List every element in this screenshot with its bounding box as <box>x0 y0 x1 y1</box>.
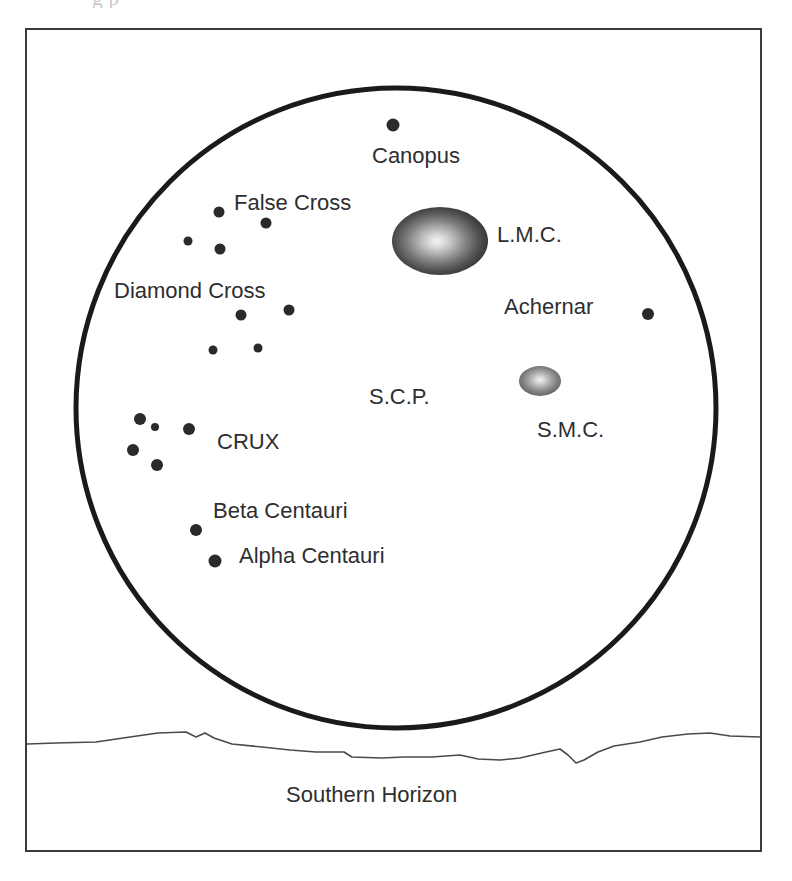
label-achernar: Achernar <box>504 296 593 318</box>
label-crux: CRUX <box>217 431 279 453</box>
label-lmc: L.M.C. <box>497 224 562 246</box>
label-alpha-centauri: Alpha Centauri <box>239 545 385 567</box>
label-southern-horizon: Southern Horizon <box>286 784 457 806</box>
clipped-caption-above: g p <box>0 0 792 8</box>
star-chart-figure: g p <box>0 0 792 881</box>
label-canopus: Canopus <box>372 145 460 167</box>
label-scp: S.C.P. <box>369 386 430 408</box>
label-diamond-cross: Diamond Cross <box>114 280 266 302</box>
label-smc: S.M.C. <box>537 419 604 441</box>
label-false-cross: False Cross <box>234 192 351 214</box>
label-beta-centauri: Beta Centauri <box>213 500 348 522</box>
